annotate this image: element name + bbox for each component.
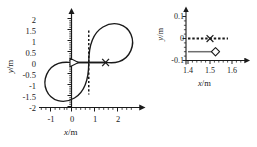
main-trajectory-plot: y/m x/m 2 1.5 1 0.5 0 -0.5 -1 -1.5 -2 -1… <box>0 0 150 147</box>
inset-robot-marker-diamond-icon <box>211 48 219 56</box>
inset-plot-canvas <box>150 0 257 147</box>
start-marker-triangle-right-icon <box>70 58 79 66</box>
right-lobe-path <box>89 24 133 63</box>
main-trajectory-curve <box>45 24 133 102</box>
inset-target-marker-cross-x-icon <box>207 35 214 42</box>
main-plot-canvas <box>0 0 150 147</box>
main-x-axis <box>39 108 140 112</box>
inset-detail-plot: y/m x/m 0.1 0 -0.1 1.4 1.5 1.6 <box>150 0 257 147</box>
inset-y-axis <box>183 12 187 65</box>
figure-root: y/m x/m 2 1.5 1 0.5 0 -0.5 -1 -1.5 -2 -1… <box>0 0 257 147</box>
left-lobe-path <box>45 62 89 101</box>
inset-x-axis <box>186 61 245 65</box>
